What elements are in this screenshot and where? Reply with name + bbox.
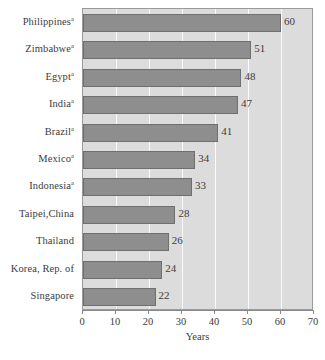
- x-tick-mark: [214, 310, 215, 314]
- footnote-marker: a: [71, 124, 74, 131]
- bar: [83, 206, 175, 224]
- bar: [83, 96, 238, 114]
- x-axis-title: Years: [82, 331, 313, 342]
- bar: [83, 151, 195, 169]
- bar-row: [83, 124, 314, 142]
- bar-chart: PhilippinesaZimbabweaEgyptaIndiaaBrazila…: [0, 0, 325, 360]
- bar: [83, 41, 251, 59]
- category-axis: PhilippinesaZimbabweaEgyptaIndiaaBrazila…: [0, 8, 78, 310]
- bar-row: [83, 69, 314, 87]
- bar-row: [83, 96, 314, 114]
- x-tick-label: 10: [104, 317, 126, 328]
- x-tick-mark: [247, 310, 248, 314]
- bar: [83, 178, 192, 196]
- bar: [83, 124, 218, 142]
- footnote-marker: a: [71, 14, 74, 21]
- bar: [83, 233, 169, 251]
- bar-row: [83, 41, 314, 59]
- footnote-marker: a: [71, 42, 74, 49]
- x-tick-label: 40: [203, 317, 225, 328]
- bar-row: [83, 261, 314, 279]
- footnote-marker: a: [71, 69, 74, 76]
- x-tick-label: 0: [71, 317, 93, 328]
- category-label: Taipei,China: [19, 209, 74, 220]
- x-tick-mark: [313, 310, 314, 314]
- x-tick-mark: [181, 310, 182, 314]
- bar-row: [83, 14, 314, 32]
- bar-row: [83, 288, 314, 306]
- category-label: Singapore: [31, 291, 74, 302]
- category-label: Egypta: [45, 72, 74, 83]
- bar-row: [83, 151, 314, 169]
- bar: [83, 288, 156, 306]
- x-tick-label: 30: [170, 317, 192, 328]
- bar: [83, 69, 241, 87]
- x-tick-label: 20: [137, 317, 159, 328]
- category-label: Zimbabwea: [25, 44, 74, 55]
- x-tick-mark: [115, 310, 116, 314]
- x-tick-mark: [82, 310, 83, 314]
- x-tick-label: 50: [236, 317, 258, 328]
- x-tick-label: 70: [302, 317, 324, 328]
- category-label: Mexicoa: [38, 154, 74, 165]
- x-tick-mark: [148, 310, 149, 314]
- gridline: [314, 9, 315, 309]
- bar: [83, 14, 281, 32]
- x-tick-mark: [280, 310, 281, 314]
- bar-row: [83, 206, 314, 224]
- category-label: Indonesiaa: [29, 181, 74, 192]
- bar-row: [83, 233, 314, 251]
- category-label: Thailand: [36, 236, 74, 247]
- footnote-marker: a: [71, 97, 74, 104]
- x-axis-line: [82, 310, 313, 311]
- category-label: Indiaa: [49, 99, 74, 110]
- category-label: Brazila: [45, 127, 74, 138]
- category-label: Korea, Rep. of: [11, 264, 74, 275]
- footnote-marker: a: [71, 179, 74, 186]
- bar-row: [83, 178, 314, 196]
- footnote-marker: a: [71, 152, 74, 159]
- category-label: Philippinesa: [23, 17, 74, 28]
- bar: [83, 261, 162, 279]
- x-tick-label: 60: [269, 317, 291, 328]
- plot-area: [82, 8, 313, 310]
